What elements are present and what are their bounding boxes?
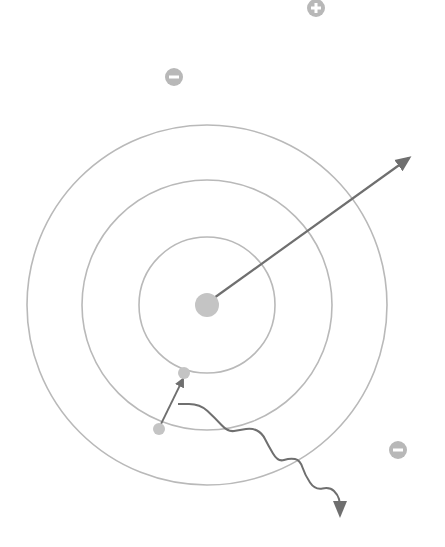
negative-ion-top-icon xyxy=(165,68,183,86)
excitation-arrow-icon xyxy=(161,379,183,424)
negative-ion-right-icon xyxy=(389,441,407,459)
nucleus xyxy=(195,293,219,317)
ground-electron xyxy=(153,423,165,435)
atom-diagram: atom-energy-levels xyxy=(0,0,445,547)
excited-electron xyxy=(178,367,190,379)
positive-ion-icon xyxy=(307,0,325,17)
arrows xyxy=(161,158,409,518)
photon-arrowhead-icon xyxy=(333,501,347,518)
atom-diagram-canvas xyxy=(0,0,445,547)
ionization-arrow-icon xyxy=(214,158,409,298)
